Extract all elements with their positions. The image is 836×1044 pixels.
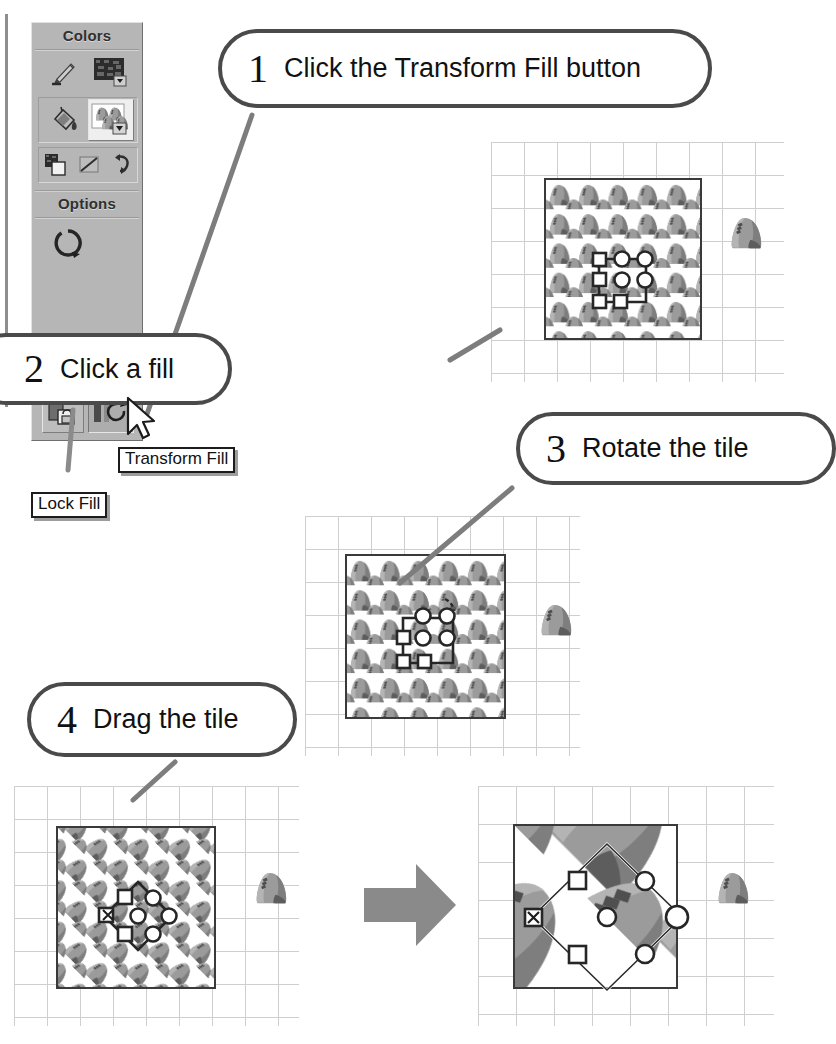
transform-handles[interactable] xyxy=(305,516,580,756)
callout-text-2: Click a fill xyxy=(60,356,174,383)
canvas-step4-after[interactable] xyxy=(478,786,774,1026)
no-color-icon xyxy=(77,153,101,177)
transform-fill-tooltip: Transform Fill xyxy=(118,447,235,473)
panel-divider-2 xyxy=(35,190,139,192)
callout-text-4: Drag the tile xyxy=(93,706,239,733)
paint-bucket-icon xyxy=(48,104,82,136)
bitmap-fill-swatch-icon xyxy=(91,103,131,137)
black-and-white-icon xyxy=(43,152,69,178)
transform-handles[interactable] xyxy=(478,786,774,1026)
gap-size-circle-icon xyxy=(48,226,88,264)
callout-text-1: Click the Transform Fill button xyxy=(284,55,641,82)
stroke-color-button[interactable] xyxy=(44,55,86,91)
swap-colors-button[interactable] xyxy=(106,149,136,181)
panel-section-title-colors: Colors xyxy=(32,27,142,44)
panel-section-title-options: Options xyxy=(32,195,142,212)
canvas-step3[interactable] xyxy=(305,516,580,756)
callout-step-2: 2 Click a fill xyxy=(0,333,232,405)
result-arrow xyxy=(358,858,462,952)
black-and-white-button[interactable] xyxy=(40,149,72,181)
transform-handles[interactable] xyxy=(491,142,784,382)
no-color-button[interactable] xyxy=(74,149,104,181)
fill-color-swatch-icon xyxy=(92,56,132,90)
panel-divider-3 xyxy=(35,217,139,219)
callout-step-4: 4 Drag the tile xyxy=(27,682,297,757)
callout-number-3: 3 xyxy=(546,429,566,469)
panel-divider xyxy=(35,49,139,51)
callout-text-3: Rotate the tile xyxy=(582,435,749,462)
transform-handles[interactable] xyxy=(14,786,299,1026)
fill-preview-button[interactable] xyxy=(88,99,134,141)
paint-bucket-button[interactable] xyxy=(44,101,86,139)
swap-colors-icon xyxy=(109,152,133,178)
callout-step-3: 3 Rotate the tile xyxy=(516,412,836,485)
fill-color-button[interactable] xyxy=(90,53,134,93)
gap-size-button[interactable] xyxy=(44,223,92,267)
callout-step-1: 1 Click the Transform Fill button xyxy=(218,29,712,108)
callout-number-4: 4 xyxy=(57,700,77,740)
lock-fill-tooltip: Lock Fill xyxy=(31,492,107,518)
canvas-step4-before[interactable] xyxy=(14,786,299,1026)
pencil-stroke-icon xyxy=(48,58,82,88)
callout-number-1: 1 xyxy=(248,49,268,89)
canvas-step2[interactable] xyxy=(491,142,784,382)
callout-number-2: 2 xyxy=(24,349,44,389)
